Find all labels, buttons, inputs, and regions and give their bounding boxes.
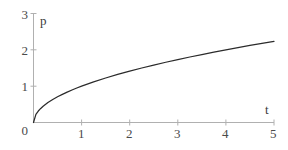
y-tick-label-3: 3 [18,8,28,21]
x-tick-label-4: 4 [222,127,229,140]
y-tick-label-1: 1 [18,80,28,93]
x-tick-label-1: 1 [78,127,85,140]
y-axis-label: p [40,14,47,27]
y-tick-label-2: 2 [18,44,28,57]
x-tick-label-3: 3 [174,127,181,140]
x-axis-label: t [265,103,269,116]
x-tick-label-5: 5 [270,127,277,140]
x-tick-label-2: 2 [126,127,133,140]
y-tick-label-0: 0 [18,124,28,137]
plot-figure: 3 2 1 0 1 2 3 4 5 p t [0,0,288,150]
data-curve [34,41,275,122]
